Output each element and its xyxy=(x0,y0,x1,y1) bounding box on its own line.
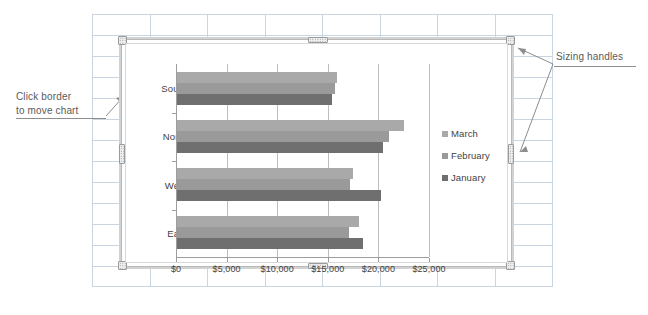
annotation-click-border: Click border to move chart xyxy=(16,90,116,118)
category-axis-line xyxy=(176,257,429,258)
bar-group-south xyxy=(177,64,429,112)
chart-plot-container[interactable]: SouthNorthWestEast $0$5,000$10,000$15,00… xyxy=(125,43,508,263)
value-axis-tick-15000 xyxy=(328,258,329,262)
bar-north-january[interactable] xyxy=(177,142,383,153)
bar-west-february[interactable] xyxy=(177,179,350,190)
sizing-handle-middle-right[interactable] xyxy=(508,144,514,164)
value-axis-tick-0 xyxy=(176,258,177,262)
annotation-sizing-text: Sizing handles xyxy=(556,50,646,64)
bar-west-march[interactable] xyxy=(177,168,353,179)
annotation-sizing-handles: Sizing handles xyxy=(556,50,646,64)
bar-group-west xyxy=(177,161,429,209)
bar-south-march[interactable] xyxy=(177,72,337,83)
legend-swatch-january-icon xyxy=(442,175,448,181)
value-axis-label-15000: $15,000 xyxy=(311,264,344,274)
legend-swatch-march-icon xyxy=(442,131,448,137)
annotation-move-line1: Click border xyxy=(16,90,116,104)
legend-item-march[interactable]: March xyxy=(442,128,490,139)
bar-east-february[interactable] xyxy=(177,227,349,238)
value-axis-label-10000: $10,000 xyxy=(261,264,294,274)
legend-label-march: March xyxy=(451,128,478,139)
bar-south-january[interactable] xyxy=(177,94,332,105)
annotation-sizing-underline xyxy=(554,66,636,67)
bar-groups xyxy=(177,64,429,257)
value-axis-label-5000: $5,000 xyxy=(213,264,241,274)
value-axis-label-25000: $25,000 xyxy=(412,264,445,274)
legend-label-january: January xyxy=(451,172,486,183)
annotation-move-line2: to move chart xyxy=(16,104,116,118)
chart-object[interactable]: SouthNorthWestEast $0$5,000$10,000$15,00… xyxy=(121,39,512,267)
value-axis-tick-labels: $0$5,000$10,000$15,000$20,000$25,000 xyxy=(176,264,429,278)
bar-group-north xyxy=(177,112,429,160)
value-axis-label-20000: $20,000 xyxy=(362,264,395,274)
legend-item-february[interactable]: February xyxy=(442,150,490,161)
gridline-25000 xyxy=(429,64,430,257)
category-axis-tick-1 xyxy=(172,113,176,114)
value-axis-tick-10000 xyxy=(277,258,278,262)
plot-area xyxy=(176,64,429,258)
screenshot-canvas: Click border to move chart Sizing handle… xyxy=(0,0,648,315)
bar-east-january[interactable] xyxy=(177,238,363,249)
bar-north-february[interactable] xyxy=(177,131,389,142)
category-axis-tick-3 xyxy=(172,210,176,211)
bar-north-march[interactable] xyxy=(177,120,404,131)
bar-south-february[interactable] xyxy=(177,83,335,94)
value-axis-tick-5000 xyxy=(227,258,228,262)
value-axis-label-0: $0 xyxy=(171,264,181,274)
category-axis-tick-2 xyxy=(172,161,176,162)
legend-item-january[interactable]: January xyxy=(442,172,490,183)
legend-swatch-february-icon xyxy=(442,153,448,159)
bar-west-january[interactable] xyxy=(177,190,381,201)
bar-group-east xyxy=(177,209,429,257)
bar-east-march[interactable] xyxy=(177,216,359,227)
chart-legend[interactable]: MarchFebruaryJanuary xyxy=(442,128,490,183)
annotation-move-underline xyxy=(16,118,106,119)
legend-label-february: February xyxy=(451,150,490,161)
value-axis-tick-20000 xyxy=(378,258,379,262)
value-axis-tick-25000 xyxy=(429,258,430,262)
